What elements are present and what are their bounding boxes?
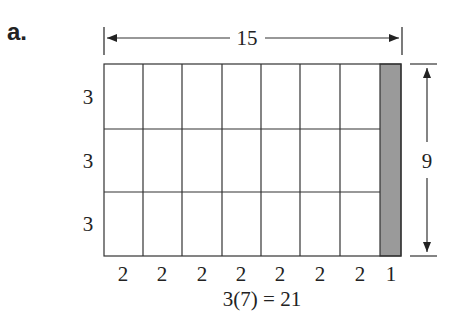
shaded-remainder-column xyxy=(380,64,401,256)
row-labels: 3 3 3 xyxy=(83,85,94,236)
column-labels: 2 2 2 2 2 2 2 1 xyxy=(118,262,397,286)
grid xyxy=(104,64,401,256)
width-label: 15 xyxy=(237,26,258,50)
height-dimension: 9 xyxy=(410,64,437,256)
column-label: 2 xyxy=(236,262,247,286)
width-dimension: 15 xyxy=(104,26,402,55)
equation: 3(7) = 21 xyxy=(223,287,301,311)
column-label: 2 xyxy=(355,262,366,286)
column-label: 1 xyxy=(386,262,397,286)
height-label: 9 xyxy=(422,149,433,173)
row-label: 3 xyxy=(83,85,94,109)
column-label: 2 xyxy=(157,262,168,286)
column-label: 2 xyxy=(315,262,326,286)
column-label: 2 xyxy=(118,262,129,286)
grid-border xyxy=(104,64,401,256)
column-label: 2 xyxy=(197,262,208,286)
area-model-diagram: 15 3 3 3 9 2 2 2 2 2 2 2 1 3(7) = xyxy=(0,0,462,323)
row-label: 3 xyxy=(83,212,94,236)
column-label: 2 xyxy=(275,262,286,286)
row-label: 3 xyxy=(83,149,94,173)
